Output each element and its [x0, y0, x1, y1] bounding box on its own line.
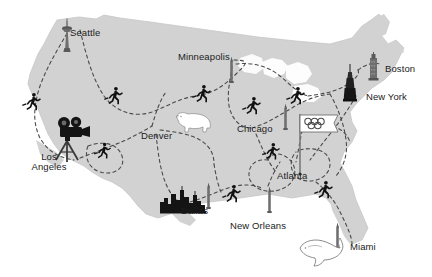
torch-relay-map: Seattle Minneapolis Boston New York Denv…: [0, 0, 432, 277]
map-canvas: [0, 0, 432, 277]
